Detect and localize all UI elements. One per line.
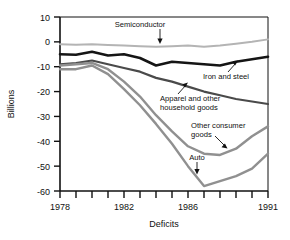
annotation-label: Auto xyxy=(189,153,205,162)
annotation-label: Apparel and other xyxy=(160,94,221,103)
y-tick-label: 0 xyxy=(45,37,50,47)
chart-figure: 10 0 -10 -20 -30 -40 -50 -60 xyxy=(0,0,290,240)
annotation-label: Semiconductor xyxy=(115,20,166,29)
y-tick-label: -60 xyxy=(37,187,50,197)
x-tick-label: 1991 xyxy=(258,202,278,212)
x-tick-label: 1978 xyxy=(50,202,70,212)
annotation-label: household goods xyxy=(160,103,218,112)
x-tick-label: 1982 xyxy=(114,202,134,212)
y-tick-label: 10 xyxy=(40,13,50,23)
y-tick-label: -20 xyxy=(37,87,50,97)
annotation-label: Iron and steel xyxy=(203,72,249,81)
y-tick-label: -30 xyxy=(37,112,50,122)
x-axis-title: Deficits xyxy=(149,219,179,229)
deficits-line-chart: 10 0 -10 -20 -30 -40 -50 -60 xyxy=(0,0,290,240)
y-tick-label: -50 xyxy=(37,162,50,172)
annotation-label: Other consumer xyxy=(191,121,246,130)
x-tick-label: 1986 xyxy=(178,202,198,212)
y-axis-title: Billions xyxy=(6,89,16,118)
annotation-label: goods xyxy=(191,130,212,139)
y-tick-label: -40 xyxy=(37,137,50,147)
y-tick-label: -10 xyxy=(37,62,50,72)
